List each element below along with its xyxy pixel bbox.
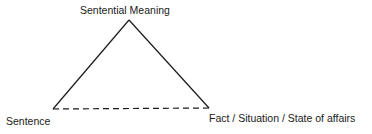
label-sentential-meaning: Sentential Meaning	[80, 4, 170, 16]
label-sentence: Sentence	[6, 115, 50, 127]
edge-sentence-fact-dashed	[53, 108, 209, 109]
label-fact-situation: Fact / Situation / State of affairs	[209, 112, 355, 124]
edge-sentence-meaning	[53, 20, 129, 109]
edge-meaning-fact	[129, 20, 209, 108]
